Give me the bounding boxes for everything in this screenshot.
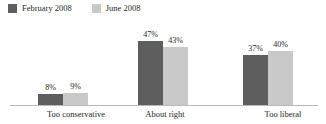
bar-june — [268, 51, 293, 105]
bar-pair: 37% 40% — [243, 41, 293, 105]
category-label-about-right: About right — [140, 110, 190, 119]
bar-chart: February 2008 June 2008 8% 9% — [0, 0, 326, 124]
bar-slot-february: 8% — [38, 84, 63, 105]
bar-february — [243, 55, 268, 105]
bar-slot-june: 9% — [63, 83, 88, 105]
bar-slot-february: 37% — [243, 45, 268, 105]
bar-february — [38, 94, 63, 105]
category-label-too-conservative: Too conservative — [26, 110, 126, 119]
bar-value-label: 8% — [45, 84, 56, 92]
bar-value-label: 43% — [168, 37, 183, 45]
bar-pair: 8% 9% — [38, 83, 88, 105]
x-axis-baseline — [10, 105, 318, 106]
bar-value-label: 47% — [143, 31, 158, 39]
plot-area: 8% 9% 47% 43% — [0, 0, 326, 124]
bar-june — [63, 93, 88, 105]
bar-value-label: 40% — [273, 41, 288, 49]
bar-june — [163, 47, 188, 105]
bar-february — [138, 41, 163, 105]
bar-slot-june: 43% — [163, 37, 188, 105]
bar-pair: 47% 43% — [138, 31, 188, 105]
bar-slot-june: 40% — [268, 41, 293, 105]
category-label-too-liberal: Too liberal — [247, 110, 319, 119]
bar-slot-february: 47% — [138, 31, 163, 105]
bar-value-label: 37% — [248, 45, 263, 53]
bar-value-label: 9% — [70, 83, 81, 91]
